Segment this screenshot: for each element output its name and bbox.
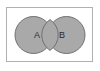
venn-diagram-figure: A B <box>0 0 100 71</box>
set-a-label: A <box>34 30 40 40</box>
set-b-label: B <box>59 30 65 40</box>
venn-diagram-canvas: A B <box>0 0 100 71</box>
